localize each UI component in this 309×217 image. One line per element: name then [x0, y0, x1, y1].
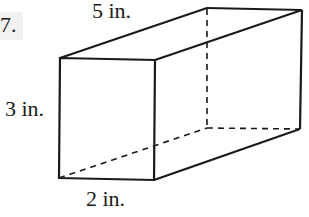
front-face	[59, 58, 155, 180]
rectangular-prism-figure	[0, 0, 309, 217]
top-back-edge	[207, 8, 302, 10]
width-label: 2 in.	[86, 188, 125, 210]
height-label: 3 in.	[5, 98, 44, 120]
bottom-right-edge	[154, 129, 300, 180]
back-right-vertical-edge	[300, 10, 302, 129]
hidden-edge-depth	[59, 128, 207, 178]
hidden-edge-back-bottom	[207, 128, 300, 129]
length-label: 5 in.	[92, 0, 131, 22]
